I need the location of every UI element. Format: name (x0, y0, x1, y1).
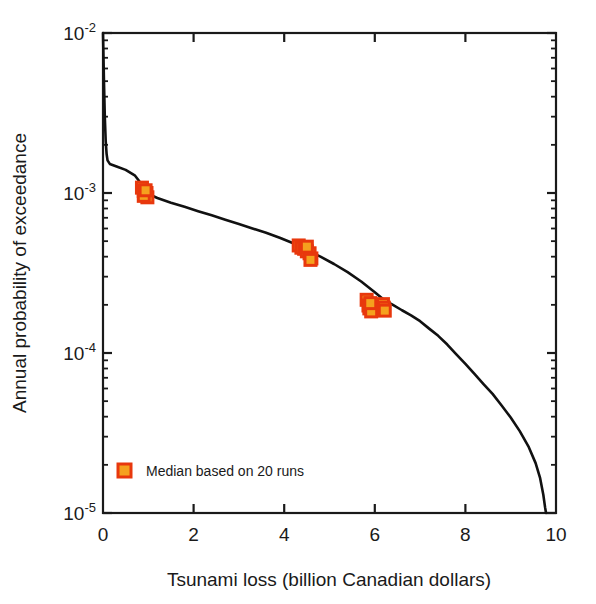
data-point-marker (301, 241, 312, 252)
legend-label: Median based on 20 runs (146, 463, 304, 479)
x-tick-label: 6 (370, 524, 381, 545)
y-axis-title: Annual probability of exceedance (9, 133, 30, 413)
data-point-marker (305, 254, 316, 265)
exceedance-probability-chart: 10-210-310-410-5 0246810 Tsunami loss (b… (0, 0, 596, 604)
x-axis-title: Tsunami loss (billion Canadian dollars) (167, 569, 491, 590)
legend-marker-square (118, 464, 131, 477)
x-tick-label: 10 (545, 524, 566, 545)
x-tick-label: 8 (460, 524, 471, 545)
data-point-marker (379, 305, 390, 316)
data-point-marker (365, 298, 376, 309)
data-point-marker (140, 185, 151, 196)
chart-canvas: 10-210-310-410-5 0246810 Tsunami loss (b… (0, 0, 596, 604)
x-tick-label: 4 (279, 524, 290, 545)
x-tick-label: 2 (188, 524, 199, 545)
x-tick-label: 0 (98, 524, 109, 545)
chart-legend: Median based on 20 runs (118, 463, 304, 479)
